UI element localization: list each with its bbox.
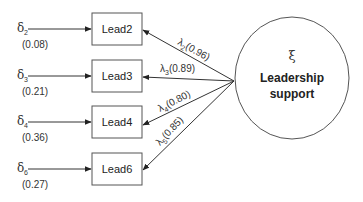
svg-text:λ4(0.80): λ4(0.80) xyxy=(156,88,193,115)
error-variance: (0.27) xyxy=(22,179,48,190)
svg-text:λ2(0.96): λ2(0.96) xyxy=(175,36,212,64)
indicator-lead2: Lead2 xyxy=(92,13,142,45)
error-arrows xyxy=(28,29,91,169)
indicator-lead4: Lead4 xyxy=(92,106,142,138)
latent-name-line1: Leadership xyxy=(260,71,324,85)
svg-text:4: 4 xyxy=(24,122,28,129)
svg-text:6: 6 xyxy=(24,169,28,176)
error-delta-2: δ 2 (0.08) xyxy=(17,21,48,50)
indicator-lead3: Lead3 xyxy=(92,60,142,92)
loading-lambda-3: λ3(0.89) xyxy=(160,63,195,76)
error-delta-3: δ 3 (0.21) xyxy=(17,68,48,97)
error-delta-6: δ 6 (0.27) xyxy=(17,161,48,190)
xi-symbol: ξ xyxy=(288,48,295,63)
error-variance: (0.36) xyxy=(22,132,48,143)
loading-lambda-4: λ4(0.80) xyxy=(156,88,193,115)
error-delta-4: δ 4 (0.36) xyxy=(17,114,48,143)
error-variance: (0.21) xyxy=(22,86,48,97)
latent-factor-leadership-support: ξ Leadership support xyxy=(235,17,349,139)
indicator-label: Lead3 xyxy=(102,70,133,82)
latent-name-line2: support xyxy=(270,87,315,101)
svg-text:3: 3 xyxy=(24,76,28,83)
error-variance: (0.08) xyxy=(22,39,48,50)
cfa-diagram: ξ Leadership support Lead2 Lead3 Lead4 L… xyxy=(0,0,363,202)
loading-lambda-2: λ2(0.96) xyxy=(175,36,212,64)
svg-text:λ3(0.89): λ3(0.89) xyxy=(160,63,195,76)
indicator-label: Lead2 xyxy=(102,23,133,35)
svg-text:2: 2 xyxy=(24,29,28,36)
indicator-label: Lead4 xyxy=(102,116,133,128)
indicator-label: Lead6 xyxy=(102,163,133,175)
indicator-lead6: Lead6 xyxy=(92,153,142,185)
